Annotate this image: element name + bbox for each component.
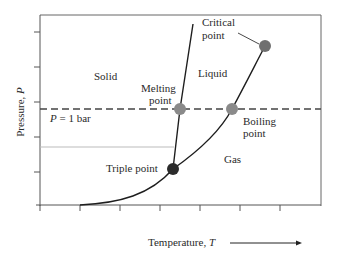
triple-point-label: Triple point xyxy=(106,162,158,174)
boiling-point-label-line1: Boiling xyxy=(243,115,277,127)
x-axis-ticks xyxy=(40,205,280,211)
phase-diagram: Solid Liquid Gas Critical point Melting … xyxy=(0,0,338,255)
critical-point-label-line2: point xyxy=(202,29,225,41)
one-bar-text: = 1 bar xyxy=(57,112,91,124)
fusion-curve xyxy=(173,24,193,169)
y-axis-label: Pressure, P xyxy=(14,87,26,137)
y-axis-ticks xyxy=(34,32,40,172)
melting-point-label-line2: point xyxy=(149,94,172,106)
critical-point-label-line1: Critical xyxy=(202,16,235,28)
boiling-point-marker xyxy=(226,103,238,115)
y-axis-label-text: Pressure, xyxy=(14,94,26,137)
melting-point-label-line1: Melting xyxy=(141,82,176,94)
sublimation-curve xyxy=(80,169,173,205)
x-axis-label: Temperature, T xyxy=(148,236,216,248)
x-axis-label-text: Temperature, xyxy=(148,236,209,248)
region-liquid-label: Liquid xyxy=(198,67,228,79)
melting-point-marker xyxy=(174,103,186,115)
y-axis-symbol: P xyxy=(14,87,26,95)
x-axis-arrow-icon xyxy=(230,241,302,246)
critical-point-pointer xyxy=(238,33,259,44)
x-axis-symbol: T xyxy=(209,236,216,248)
critical-point-marker xyxy=(259,40,271,52)
phase-diagram-canvas: Solid Liquid Gas Critical point Melting … xyxy=(0,0,338,255)
boiling-point-label-line2: point xyxy=(243,127,266,139)
region-solid-label: Solid xyxy=(94,70,118,82)
region-gas-label: Gas xyxy=(224,153,241,165)
one-bar-label: P = 1 bar xyxy=(49,112,91,124)
triple-point-marker xyxy=(167,163,179,175)
